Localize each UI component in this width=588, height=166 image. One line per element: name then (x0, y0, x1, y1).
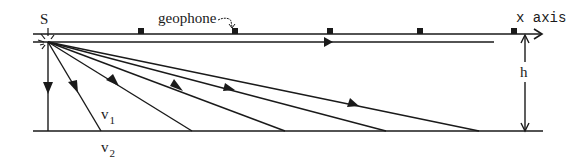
ray-arrow-icon (347, 98, 359, 107)
x-axis-label: x axis (516, 11, 566, 25)
geophone-icon (327, 28, 333, 34)
v1-base: v (101, 106, 109, 122)
ray-arrow-icon (106, 74, 119, 86)
geophone-icon (417, 28, 423, 34)
geophones (138, 28, 517, 34)
ray-arrow-icon (223, 83, 235, 91)
head-wave-line (33, 37, 494, 47)
geophone-icon (232, 28, 238, 34)
refraction-diagram: S geophone x axis h v1 v2 (0, 0, 588, 166)
v2-label: v2 (101, 140, 115, 155)
x-axis-line (33, 29, 542, 39)
head-wave-arrow-icon (324, 37, 333, 47)
source-label: S (40, 12, 48, 27)
v2-base: v (101, 139, 109, 155)
ray-arrowheads (43, 74, 359, 107)
geophone-label: geophone (158, 11, 216, 26)
geophone-pointer-arrow (218, 18, 235, 28)
thickness-label: h (520, 65, 528, 80)
v1-subscript: 1 (110, 114, 116, 126)
diagram-graphics (0, 0, 588, 166)
v1-label: v1 (101, 107, 115, 122)
ray-4 (48, 42, 285, 131)
ray-arrow-icon (43, 82, 53, 94)
ray-3 (48, 42, 192, 131)
geophone-icon (138, 28, 144, 34)
source-burst-icon (38, 28, 54, 49)
ray-arrow-icon (68, 80, 78, 93)
thickness-arrow (521, 35, 529, 131)
v2-subscript: 2 (110, 147, 116, 159)
geophone-icon (511, 28, 517, 34)
ray-5 (48, 42, 386, 131)
